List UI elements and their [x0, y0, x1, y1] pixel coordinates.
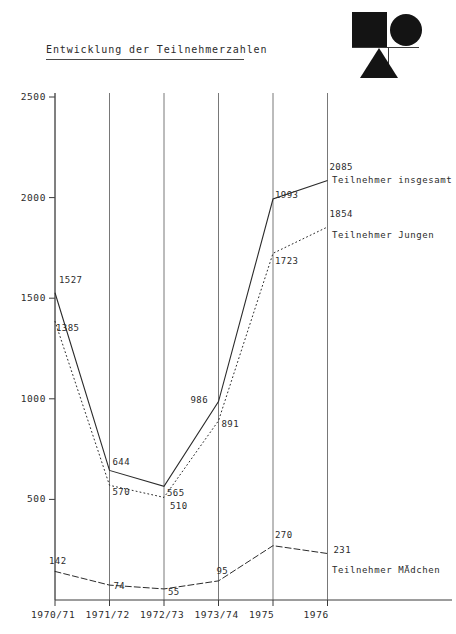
y-axis-tick-label: 1000	[8, 393, 46, 404]
data-point-label: 74	[114, 581, 126, 591]
series-line-0	[55, 180, 328, 486]
x-axis-tick-label: 1973/74	[195, 609, 239, 620]
y-axis-tick-label: 2500	[8, 91, 46, 102]
y-axis-tick-label: 2000	[8, 192, 46, 203]
data-point-label: 1385	[56, 323, 79, 333]
data-point-label: 1723	[275, 256, 298, 266]
data-point-label: 891	[222, 419, 239, 429]
series-name-label: Teilnehmer insgesamt	[332, 175, 452, 185]
data-point-label: 95	[217, 566, 229, 576]
data-point-label: 986	[191, 395, 208, 405]
y-axis-tick-label: 500	[8, 493, 46, 504]
x-axis-tick-label: 1975	[249, 609, 274, 620]
data-point-label: 510	[170, 501, 187, 511]
chart-page: Entwicklung der Teilnehmerzahlen 5001000…	[0, 0, 456, 634]
data-point-label: 565	[167, 488, 184, 498]
series-name-label: Teilnehmer Jungen	[332, 230, 434, 240]
x-axis-tick-label: 1970/71	[31, 609, 75, 620]
data-point-label: 1527	[59, 275, 82, 285]
series-name-label: Teilnehmer MÄdchen	[332, 565, 440, 575]
data-point-label: 2085	[330, 162, 353, 172]
data-point-label: 231	[334, 545, 351, 555]
data-point-label: 570	[113, 487, 130, 497]
series-line-2	[55, 546, 328, 589]
data-point-label: 142	[49, 556, 66, 566]
data-point-label: 55	[168, 587, 180, 597]
data-point-label: 270	[275, 530, 292, 540]
x-axis-tick-label: 1971/72	[86, 609, 130, 620]
series-line-1	[55, 227, 328, 497]
x-axis-tick-label: 1976	[304, 609, 329, 620]
data-point-label: 1854	[330, 209, 353, 219]
y-axis-tick-label: 1500	[8, 292, 46, 303]
data-point-label: 1993	[275, 190, 298, 200]
data-point-label: 644	[113, 457, 130, 467]
chart-plot	[0, 0, 456, 634]
x-axis-tick-label: 1972/73	[140, 609, 184, 620]
